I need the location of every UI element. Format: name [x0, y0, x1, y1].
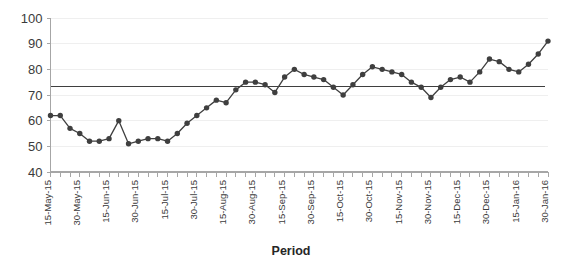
x-tick-labels: 15-May-1530-May-1515-Jun-1530-Jun-1515-J…: [42, 180, 551, 225]
data-point-marker: [97, 139, 102, 144]
gridlines: [51, 18, 549, 172]
x-tick-label: 30-Jul-15: [188, 180, 199, 220]
x-tick-label: 30-Sep-15: [305, 180, 316, 224]
x-tick-label: 30-Dec-15: [480, 180, 491, 224]
data-point-marker: [331, 85, 336, 90]
data-point-marker: [526, 61, 531, 66]
data-point-marker: [428, 95, 433, 100]
y-tick-label: 100: [21, 11, 43, 26]
data-point-marker: [136, 139, 141, 144]
x-tick-label: 15-Jan-16: [510, 180, 521, 223]
y-tick-label: 40: [28, 165, 42, 180]
x-tick-label: 30-Aug-15: [246, 180, 257, 224]
x-tick-label: 30-Jun-15: [129, 180, 140, 223]
x-tick-label: 15-Oct-15: [334, 180, 345, 222]
x-tick-label: 15-Aug-15: [217, 180, 228, 224]
y-tick-label: 90: [28, 36, 42, 51]
data-point-marker: [448, 77, 453, 82]
data-point-marker: [165, 139, 170, 144]
data-point-marker: [370, 64, 375, 69]
data-point-marker: [350, 82, 355, 87]
x-tick-label: 15-Dec-15: [451, 180, 462, 224]
data-point-marker: [194, 113, 199, 118]
data-point-marker: [438, 85, 443, 90]
data-point-marker: [262, 82, 267, 87]
x-tick-label: 15-Nov-15: [393, 180, 404, 224]
data-point-marker: [155, 136, 160, 141]
data-point-marker: [126, 141, 131, 146]
data-point-marker: [58, 113, 63, 118]
data-point-marker: [321, 77, 326, 82]
data-point-marker: [360, 72, 365, 77]
y-tick-label: 50: [28, 139, 42, 154]
x-tick-label: 30-Jan-16: [539, 180, 550, 223]
x-axis-title: Period: [272, 244, 311, 258]
data-point-marker: [67, 126, 72, 131]
data-point-marker: [272, 90, 277, 95]
data-point-marker: [301, 72, 306, 77]
data-point-marker: [87, 139, 92, 144]
data-point-marker: [292, 67, 297, 72]
x-tick-label: 15-Jul-15: [159, 180, 170, 220]
data-point-marker: [282, 74, 287, 79]
y-tick-label: 70: [28, 88, 42, 103]
x-tick-label: 30-Nov-15: [422, 180, 433, 224]
data-point-marker: [467, 79, 472, 84]
data-point-marker: [243, 79, 248, 84]
x-tick-label: 30-May-15: [71, 180, 82, 225]
x-axis: [51, 172, 549, 177]
chart-container: 405060708090100 15-May-1530-May-1515-Jun…: [0, 0, 582, 269]
data-point-marker: [516, 69, 521, 74]
data-point-marker: [77, 131, 82, 136]
data-point-marker: [536, 51, 541, 56]
data-point-marker: [477, 69, 482, 74]
data-point-marker: [506, 67, 511, 72]
data-point-marker: [214, 97, 219, 102]
y-tick-label: 80: [28, 62, 42, 77]
y-tick-label: 60: [28, 113, 42, 128]
data-point-marker: [48, 113, 53, 118]
data-point-marker: [311, 74, 316, 79]
data-point-marker: [204, 105, 209, 110]
data-point-marker: [487, 56, 492, 61]
data-point-marker: [497, 59, 502, 64]
series-line: [51, 41, 549, 144]
data-point-marker: [389, 69, 394, 74]
data-point-marker: [418, 85, 423, 90]
data-point-marker: [223, 100, 228, 105]
data-point-marker: [233, 87, 238, 92]
line-chart: 405060708090100 15-May-1530-May-1515-Jun…: [0, 0, 582, 269]
data-point-marker: [116, 118, 121, 123]
data-point-marker: [106, 136, 111, 141]
data-point-marker: [399, 72, 404, 77]
data-point-marker: [545, 38, 550, 43]
x-tick-label: 15-Jun-15: [100, 180, 111, 223]
data-point-marker: [145, 136, 150, 141]
data-point-marker: [409, 79, 414, 84]
data-point-marker: [458, 74, 463, 79]
x-tick-label: 15-May-15: [42, 180, 53, 225]
y-axis: 405060708090100: [21, 11, 51, 180]
data-point-marker: [379, 67, 384, 72]
data-point-marker: [253, 79, 258, 84]
x-tick-label: 30-Oct-15: [363, 180, 374, 222]
data-point-marker: [175, 131, 180, 136]
x-tick-label: 15-Sep-15: [276, 180, 287, 224]
data-point-marker: [184, 121, 189, 126]
data-point-marker: [340, 92, 345, 97]
data-series: [48, 38, 551, 146]
